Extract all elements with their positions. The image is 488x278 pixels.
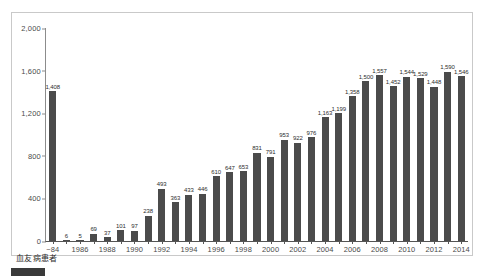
y-tick-label: 1,600 (5, 66, 41, 75)
bar-slot: 647 (226, 28, 233, 241)
x-tick-mark (216, 241, 217, 244)
bar-series: 1,40865693710197238493363433446610647653… (46, 28, 468, 241)
bar (117, 230, 124, 241)
bar (390, 86, 397, 241)
bar (199, 194, 206, 241)
bar (185, 195, 192, 241)
bar-value-label: 653 (239, 164, 249, 170)
bar-slot: 493 (158, 28, 165, 241)
x-tick-mark (366, 241, 367, 244)
x-tick-mark (53, 241, 54, 244)
x-tick-mark (203, 241, 204, 244)
bar-value-label: 69 (90, 226, 96, 232)
bar (349, 96, 356, 241)
x-tick-mark (271, 241, 272, 244)
bar-slot: 1,199 (335, 28, 342, 241)
bar-value-label: 97 (131, 223, 137, 229)
x-tick-label: 1994 (180, 245, 197, 254)
bar-slot: 1,529 (417, 28, 424, 241)
bar-slot: 1,544 (403, 28, 410, 241)
bar-value-label: 953 (279, 132, 289, 138)
bar-slot: 6 (63, 28, 70, 241)
x-tick-label: 1998 (235, 245, 252, 254)
x-tick-label: 2004 (317, 245, 334, 254)
x-tick-mark (121, 241, 122, 244)
bar-value-label: 446 (198, 186, 208, 192)
bar-value-label: 1,199 (331, 106, 346, 112)
bar (172, 202, 179, 241)
y-tick-label: 1,200 (5, 109, 41, 118)
x-tick-label: 2000 (262, 245, 279, 254)
bar (376, 75, 383, 241)
bar (417, 78, 424, 241)
x-tick-mark (448, 241, 449, 244)
x-tick-mark (230, 241, 231, 244)
x-tick-mark (420, 241, 421, 244)
legend-strip (11, 266, 473, 278)
bar-slot: 97 (131, 28, 138, 241)
bar (226, 172, 233, 241)
x-tick-mark (148, 241, 149, 244)
bar-value-label: 5 (78, 233, 81, 239)
x-tick-label: 2006 (344, 245, 361, 254)
bar-value-label: 1,163 (318, 110, 333, 116)
x-tick-label: 2008 (371, 245, 388, 254)
x-tick-mark (352, 241, 353, 244)
bar-slot: 976 (308, 28, 315, 241)
x-tick-label: 1990 (126, 245, 143, 254)
x-tick-mark (393, 241, 394, 244)
x-tick-mark (66, 241, 67, 244)
bar-slot: 1,358 (349, 28, 356, 241)
x-tick-mark (189, 241, 190, 244)
bar (403, 77, 410, 241)
bar-slot: 610 (213, 28, 220, 241)
bar-value-label: 238 (143, 208, 153, 214)
bar-value-label: 363 (170, 195, 180, 201)
x-tick-mark (243, 241, 244, 244)
bar-value-label: 791 (266, 149, 276, 155)
bar-slot: 433 (185, 28, 192, 241)
bar-value-label: 1,557 (372, 68, 387, 74)
x-tick-mark (325, 241, 326, 244)
bar (362, 81, 369, 241)
bar-slot: 1,500 (362, 28, 369, 241)
bar-value-label: 493 (157, 181, 167, 187)
bar-value-label: 6 (65, 233, 68, 239)
bar-value-label: 1,500 (359, 74, 374, 80)
bar-slot: 1,163 (322, 28, 329, 241)
bar-value-label: 1,448 (427, 79, 442, 85)
bar (240, 171, 247, 241)
bar (308, 137, 315, 241)
bar-slot: 1,557 (376, 28, 383, 241)
bar-value-label: 647 (225, 165, 235, 171)
bar-slot: 37 (104, 28, 111, 241)
bar-slot: 1,546 (458, 28, 465, 241)
x-tick-label: 1988 (99, 245, 116, 254)
x-tick-mark (107, 241, 108, 244)
y-tick-label: 400 (5, 194, 41, 203)
y-tick-label: 2,000 (5, 24, 41, 33)
bar (131, 231, 138, 241)
x-tick-label: 1992 (153, 245, 170, 254)
x-tick-mark (407, 241, 408, 244)
bar (49, 91, 56, 241)
x-tick-mark (257, 241, 258, 244)
bar-slot: 101 (117, 28, 124, 241)
bar-value-label: 1,358 (345, 89, 360, 95)
bar-value-label: 976 (307, 130, 317, 136)
bar (158, 189, 165, 242)
bar-value-label: 1,408 (46, 84, 61, 90)
bar (213, 176, 220, 241)
x-tick-mark (134, 241, 135, 244)
bar-value-label: 433 (184, 187, 194, 193)
bar-value-label: 37 (104, 230, 110, 236)
x-tick-mark (298, 241, 299, 244)
y-tick-label: 800 (5, 151, 41, 160)
x-tick-label: 1986 (71, 245, 88, 254)
x-tick-mark (80, 241, 81, 244)
bar-slot: 1,408 (49, 28, 56, 241)
bar (253, 153, 260, 242)
bar-slot: 446 (199, 28, 206, 241)
x-axis-ticks: ~841986198819901992199419961998200020022… (46, 241, 468, 257)
bar (458, 76, 465, 241)
